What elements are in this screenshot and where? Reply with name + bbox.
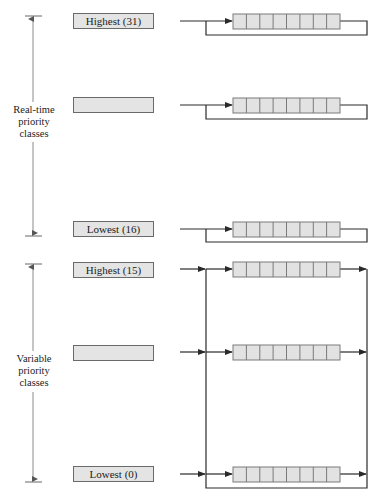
label-line: priority	[4, 365, 64, 377]
label-line: Real-time	[4, 104, 64, 116]
variable-queue-lowest	[180, 467, 366, 482]
queue-cells	[233, 14, 340, 29]
label-line: classes	[4, 377, 64, 389]
queue-cells	[233, 222, 340, 237]
queue-cells	[233, 345, 340, 360]
priority-box-realtime-highest: Highest (31)	[73, 13, 154, 29]
realtime-queue-highest	[180, 14, 367, 35]
windows-thread-priority-diagram: Real-time priority classes Variable prio…	[0, 0, 385, 503]
queue-cells	[233, 98, 340, 113]
variable-queue-middle	[180, 345, 366, 360]
realtime-queue-lowest	[180, 222, 367, 242]
priority-box-variable-lowest: Lowest (0)	[73, 466, 154, 482]
queue-cells	[233, 467, 340, 482]
priority-box-realtime-lowest: Lowest (16)	[73, 221, 154, 237]
realtime-queue-middle	[180, 98, 367, 119]
diagram-graphics	[0, 0, 385, 503]
variable-queue-highest	[180, 262, 366, 277]
priority-box-variable-highest: Highest (15)	[73, 262, 154, 278]
label-line: Variable	[4, 353, 64, 365]
queue-cells	[233, 262, 340, 277]
label-line: priority	[4, 116, 64, 128]
variable-feedback-bus	[206, 269, 367, 488]
variable-classes-label: Variable priority classes	[4, 353, 64, 389]
label-line: classes	[4, 128, 64, 140]
priority-box-variable-middle	[73, 345, 154, 361]
realtime-classes-label: Real-time priority classes	[4, 104, 64, 140]
priority-box-realtime-middle	[73, 97, 154, 113]
